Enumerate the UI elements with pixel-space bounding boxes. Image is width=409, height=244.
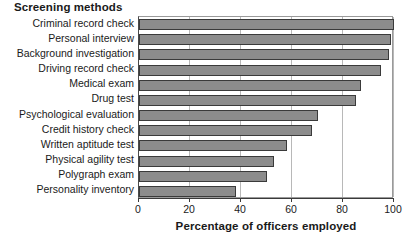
bar [139,34,391,45]
category-label: Polygraph exam [0,169,134,180]
bar [139,95,356,106]
category-label: Background investigation [0,48,134,59]
bar [139,49,389,60]
x-tick-label: 80 [322,203,362,215]
category-label: Credit history check [0,124,134,135]
x-tick-label: 60 [271,203,311,215]
category-label: Driving record check [0,63,134,74]
category-label: Criminal record check [0,18,134,29]
category-label: Written aptitude test [0,139,134,150]
x-tick-mark [189,198,190,202]
bar [139,156,274,167]
bar [139,80,361,91]
bar [139,110,318,121]
bar [139,186,236,197]
x-axis-line [138,198,394,199]
x-tick-mark [138,198,139,202]
bar [139,171,267,182]
gridline-100 [393,17,394,197]
bar-chart-figure: Screening methods Criminal record checkP… [0,0,409,244]
x-tick-mark [240,198,241,202]
category-label: Personal interview [0,33,134,44]
bar [139,19,394,30]
plot-area [138,16,393,198]
x-tick-label: 0 [118,203,158,215]
category-label: Physical agility test [0,154,134,165]
x-tick-mark [342,198,343,202]
category-axis-labels: Criminal record checkPersonal interviewB… [0,16,134,198]
category-label: Drug test [0,93,134,104]
bar [139,140,287,151]
x-tick-label: 100 [373,203,409,215]
x-tick-mark [393,198,394,202]
x-tick-label: 20 [169,203,209,215]
bar [139,65,381,76]
x-tick-label: 40 [220,203,260,215]
x-axis-title: Percentage of officers employed [138,220,394,232]
category-label: Medical exam [0,78,134,89]
x-tick-mark [291,198,292,202]
bar [139,125,312,136]
category-label: Personality inventory [0,184,134,195]
chart-title: Screening methods [14,1,122,13]
category-label: Psychological evaluation [0,109,134,120]
